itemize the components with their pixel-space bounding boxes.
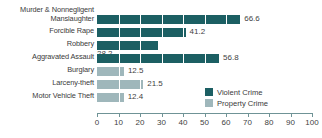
- gridline: [140, 80, 141, 89]
- legend-item: Violent Crime: [205, 87, 268, 97]
- axis-tick-label: 50: [200, 118, 209, 127]
- axis-tick-label: 20: [136, 118, 145, 127]
- chart-legend: Violent CrimeProperty Crime: [205, 87, 268, 109]
- legend-label: Violent Crime: [217, 88, 262, 97]
- gridline: [162, 28, 163, 37]
- value-label: 66.6: [244, 14, 260, 23]
- gridline: [183, 54, 184, 63]
- axis-tick: [140, 113, 141, 117]
- bar-chart: Murder & Nonnegligent Manslaughter66.6Fo…: [0, 0, 322, 138]
- gridline: [119, 15, 120, 24]
- table-row: Larceny-theft21.5: [0, 79, 322, 90]
- category-label: Motor Vehicle Theft: [0, 92, 94, 101]
- axis-tick-label: 30: [157, 118, 166, 127]
- table-row: Motor Vehicle Theft12.4: [0, 92, 322, 103]
- gridline: [119, 93, 120, 102]
- axis-tick: [183, 113, 184, 117]
- axis-tick: [248, 113, 249, 117]
- gridline: [205, 15, 206, 24]
- bar-property: [97, 80, 143, 89]
- axis-tick: [269, 113, 270, 117]
- category-label: Murder & Nonnegligent Manslaughter: [0, 6, 94, 23]
- value-label: 12.5: [128, 66, 144, 75]
- category-label: Burglary: [0, 66, 94, 75]
- value-label: 56.8: [223, 53, 239, 62]
- axis-tick-label: 90: [286, 118, 295, 127]
- category-label: Larceny-theft: [0, 79, 94, 88]
- table-row: Murder & Nonnegligent Manslaughter66.6: [0, 14, 322, 25]
- category-label: Forcible Rape: [0, 27, 94, 36]
- category-label: Aggravated Assault: [0, 53, 94, 62]
- gridline: [205, 54, 206, 63]
- axis-tick: [119, 113, 120, 117]
- axis-tick-label: 10: [114, 118, 123, 127]
- axis-tick-label: 100: [305, 118, 318, 127]
- x-axis: 0102030405060708090100: [97, 113, 312, 137]
- gridline: [140, 41, 141, 50]
- gridline: [140, 54, 141, 63]
- gridline: [183, 15, 184, 24]
- table-row: Forcible Rape41.2: [0, 27, 322, 38]
- legend-item: Property Crime: [205, 98, 268, 108]
- gridline: [140, 28, 141, 37]
- bar-container: [97, 54, 219, 63]
- table-row: Robbery28.2: [0, 40, 322, 51]
- bar-container: [97, 80, 143, 89]
- axis-tick: [162, 113, 163, 117]
- value-label: 12.4: [128, 92, 144, 101]
- bar-violent: [97, 54, 219, 63]
- legend-swatch-icon: [205, 88, 213, 96]
- gridline: [162, 54, 163, 63]
- table-row: Burglary12.5: [0, 66, 322, 77]
- axis-tick: [226, 113, 227, 117]
- axis-tick: [291, 113, 292, 117]
- gridline: [119, 80, 120, 89]
- value-label: 21.5: [147, 79, 163, 88]
- legend-label: Property Crime: [217, 99, 268, 108]
- axis-tick-label: 60: [222, 118, 231, 127]
- gridline: [119, 41, 120, 50]
- legend-swatch-icon: [205, 99, 213, 107]
- gridline: [119, 67, 120, 76]
- gridline: [226, 15, 227, 24]
- axis-tick-label: 40: [179, 118, 188, 127]
- gridline: [140, 15, 141, 24]
- gridline: [119, 28, 120, 37]
- category-label: Robbery: [0, 40, 94, 49]
- axis-tick-label: 70: [243, 118, 252, 127]
- gridline: [183, 28, 184, 37]
- table-row: Aggravated Assault56.8: [0, 53, 322, 64]
- gridline: [119, 54, 120, 63]
- gridline: [162, 15, 163, 24]
- value-label: 41.2: [190, 27, 206, 36]
- axis-tick-label: 80: [265, 118, 274, 127]
- axis-tick: [205, 113, 206, 117]
- axis-tick: [312, 113, 313, 117]
- axis-tick: [97, 113, 98, 117]
- axis-tick-label: 0: [95, 118, 99, 127]
